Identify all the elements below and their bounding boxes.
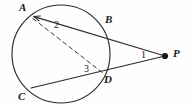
geometry-canvas	[0, 0, 193, 110]
point-label-p: P	[173, 48, 180, 59]
circle-outline	[12, 5, 110, 103]
point-label-a: A	[19, 2, 26, 13]
point-label-d: D	[104, 74, 112, 85]
segment-cp	[31, 56, 165, 88]
angle-label-3: 3	[84, 64, 89, 74]
point-label-b: B	[105, 14, 112, 25]
angle-label-2: 2	[54, 20, 59, 30]
geometry-diagram: A B C D P 1 2 3	[0, 0, 193, 110]
point-p-dot	[162, 53, 168, 59]
point-label-c: C	[18, 91, 25, 102]
angle-label-1: 1	[141, 50, 146, 60]
